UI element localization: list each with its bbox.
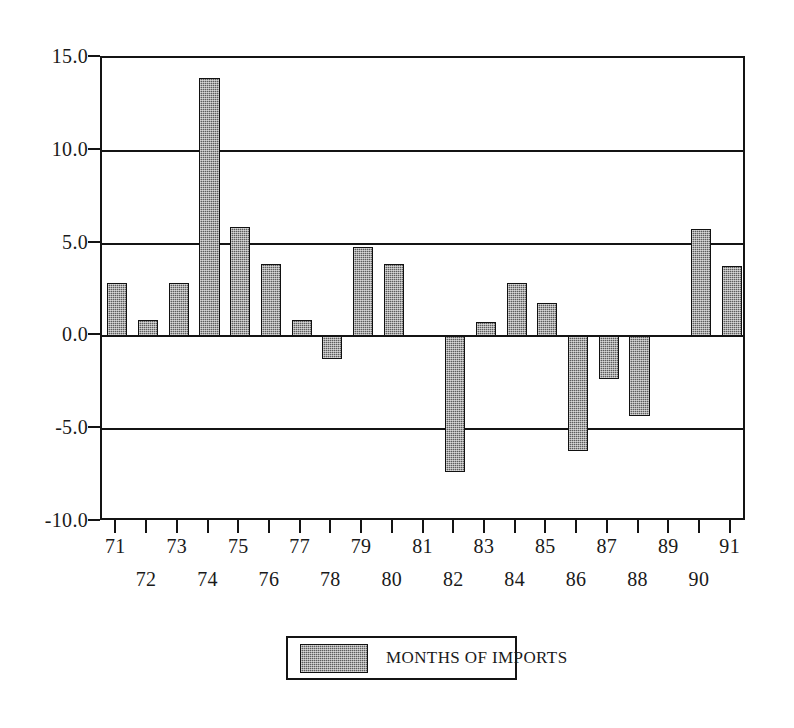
zero-baseline: [102, 335, 743, 337]
y-tick-label: 0.0: [0, 324, 88, 344]
y-tick-mark: [88, 426, 100, 428]
bar: [353, 247, 373, 336]
x-tick-mark: [667, 520, 669, 533]
y-tick-mark: [88, 333, 100, 335]
x-tick-label: 71: [93, 536, 137, 556]
bar: [138, 320, 158, 337]
bar: [507, 283, 527, 337]
x-tick-mark: [145, 520, 147, 533]
bar: [322, 336, 342, 358]
x-tick-label: 73: [155, 536, 199, 556]
x-tick-mark: [729, 520, 731, 533]
x-tick-label: 85: [523, 536, 567, 556]
bar: [384, 264, 404, 336]
x-tick-mark: [237, 520, 239, 533]
x-tick-mark: [329, 520, 331, 533]
x-tick-label: 75: [216, 536, 260, 556]
bar-series-months-of-imports: [102, 58, 743, 518]
x-tick-mark: [391, 520, 393, 533]
x-tick-mark: [360, 520, 362, 533]
y-tick-mark: [88, 519, 100, 521]
x-tick-label: 90: [677, 569, 721, 589]
y-tick-label: 10.0: [0, 139, 88, 159]
y-tick-label: 5.0: [0, 232, 88, 252]
x-tick-label: 77: [278, 536, 322, 556]
x-tick-mark: [268, 520, 270, 533]
x-tick-mark: [483, 520, 485, 533]
x-tick-label: 72: [124, 569, 168, 589]
legend-swatch-months-of-imports: [300, 644, 368, 673]
bar: [568, 336, 588, 451]
x-tick-mark: [452, 520, 454, 533]
x-tick-label: 91: [708, 536, 752, 556]
x-tick-label: 83: [462, 536, 506, 556]
x-tick-mark: [698, 520, 700, 533]
bar: [629, 336, 649, 416]
x-tick-label: 81: [401, 536, 445, 556]
x-tick-label: 74: [186, 569, 230, 589]
x-tick-mark: [422, 520, 424, 533]
x-tick-label: 78: [308, 569, 352, 589]
chart-legend: MONTHS OF IMPORTS: [286, 636, 517, 680]
x-tick-label: 88: [616, 569, 660, 589]
bar: [537, 303, 557, 336]
bar: [445, 336, 465, 471]
x-tick-mark: [544, 520, 546, 533]
legend-label-months-of-imports: MONTHS OF IMPORTS: [386, 649, 567, 667]
x-tick-mark: [114, 520, 116, 533]
bar: [107, 283, 127, 337]
x-tick-label: 84: [493, 569, 537, 589]
bar: [691, 229, 711, 337]
bar: [169, 283, 189, 337]
y-tick-label: -10.0: [0, 510, 88, 530]
y-tick-mark: [88, 148, 100, 150]
x-tick-mark: [207, 520, 209, 533]
plot-area: [100, 56, 745, 520]
y-tick-label: 15.0: [0, 46, 88, 66]
x-tick-label: 89: [646, 536, 690, 556]
x-tick-mark: [606, 520, 608, 533]
bar: [292, 320, 312, 337]
x-tick-label: 82: [431, 569, 475, 589]
y-tick-mark: [88, 55, 100, 57]
x-tick-mark: [176, 520, 178, 533]
bar: [722, 266, 742, 337]
x-tick-label: 79: [339, 536, 383, 556]
x-tick-mark: [299, 520, 301, 533]
x-tick-label: 80: [370, 569, 414, 589]
bar-chart-figure: 15.010.05.00.0-5.0-10.0 7172737475767778…: [0, 0, 794, 728]
x-tick-label: 87: [585, 536, 629, 556]
x-tick-mark: [637, 520, 639, 533]
bar: [261, 264, 281, 336]
bar: [599, 336, 619, 379]
bar: [230, 227, 250, 337]
y-tick-mark: [88, 241, 100, 243]
bar: [476, 322, 496, 337]
x-tick-mark: [514, 520, 516, 533]
y-tick-label: -5.0: [0, 417, 88, 437]
bar: [199, 78, 219, 336]
x-tick-label: 76: [247, 569, 291, 589]
x-tick-mark: [575, 520, 577, 533]
x-tick-label: 86: [554, 569, 598, 589]
